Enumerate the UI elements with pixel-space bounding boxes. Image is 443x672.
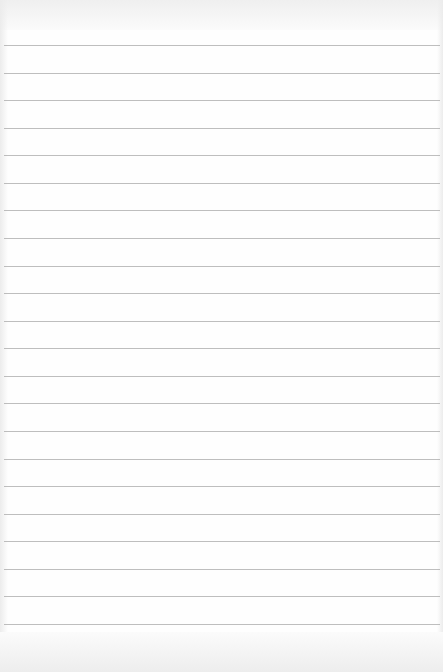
bottom-edge-texture	[0, 632, 443, 672]
ruled-line	[4, 459, 440, 460]
ruled-line	[4, 431, 440, 432]
ruled-line	[4, 266, 440, 267]
ruled-line	[4, 569, 440, 570]
ruled-line	[4, 73, 440, 74]
ruled-line	[4, 348, 440, 349]
ruled-line	[4, 403, 440, 404]
ruled-line	[4, 238, 440, 239]
ruled-line	[4, 293, 440, 294]
ruled-line	[4, 624, 440, 625]
ruled-line	[4, 100, 440, 101]
ruled-line	[4, 486, 440, 487]
ruled-line	[4, 541, 440, 542]
ruled-line	[4, 45, 440, 46]
ruled-line	[4, 155, 440, 156]
lined-paper	[0, 0, 443, 672]
ruled-line	[4, 321, 440, 322]
ruled-line	[4, 514, 440, 515]
top-edge-texture	[0, 0, 443, 30]
ruled-line	[4, 376, 440, 377]
ruled-line	[4, 210, 440, 211]
ruled-line	[4, 183, 440, 184]
ruled-line	[4, 128, 440, 129]
ruled-line	[4, 596, 440, 597]
